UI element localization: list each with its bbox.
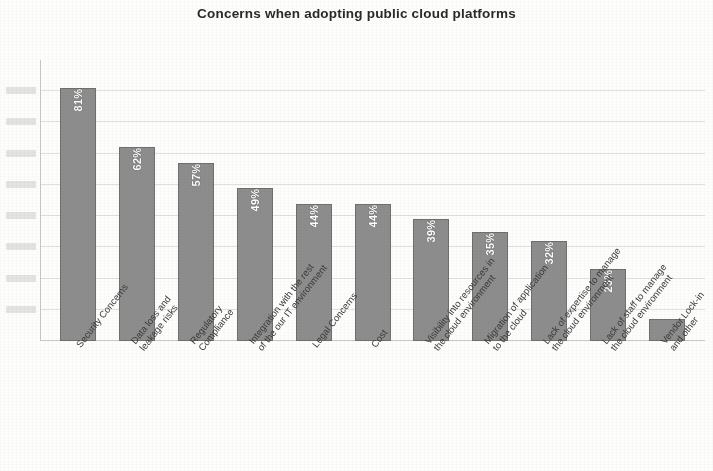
- bar-group[interactable]: 57%: [178, 60, 214, 341]
- bar-group[interactable]: 62%: [119, 60, 155, 341]
- bar-chart: Concerns when adopting public cloud plat…: [0, 0, 713, 471]
- bar-value-label: 62%: [131, 148, 143, 171]
- plot-area: 81%62%57%49%44%44%39%35%32%23%: [40, 60, 705, 341]
- y-axis-tick-label-faded: [6, 243, 36, 250]
- bar-value-label: 49%: [249, 189, 261, 212]
- bar[interactable]: 81%: [60, 88, 96, 341]
- bar-group[interactable]: 44%: [355, 60, 391, 341]
- bar-value-label: 44%: [308, 204, 320, 227]
- y-axis-tick-label-faded: [6, 150, 36, 157]
- bar-value-label: 32%: [543, 242, 555, 265]
- bar-group[interactable]: 81%: [60, 60, 96, 341]
- y-axis-tick-label-faded: [6, 181, 36, 188]
- chart-title: Concerns when adopting public cloud plat…: [0, 6, 713, 21]
- bars-container: 81%62%57%49%44%44%39%35%32%23%: [40, 60, 705, 341]
- y-axis-tick-label-faded: [6, 118, 36, 125]
- bar-group[interactable]: 39%: [413, 60, 449, 341]
- y-axis-tick-label-faded: [6, 275, 36, 282]
- y-axis-tick-label-faded: [6, 212, 36, 219]
- bar-value-label: 57%: [190, 164, 202, 187]
- y-axis-tick-label-faded: [6, 306, 36, 313]
- bar-value-label: 44%: [367, 204, 379, 227]
- bar-value-label: 39%: [425, 220, 437, 243]
- bar-group[interactable]: 49%: [237, 60, 273, 341]
- bar-value-label: 35%: [484, 232, 496, 255]
- bar-value-label: 81%: [72, 89, 84, 112]
- category-axis-labels: Security ConcernsData loss andleakage ri…: [40, 344, 705, 471]
- bar[interactable]: 44%: [355, 204, 391, 341]
- y-axis-tick-label-faded: [6, 87, 36, 94]
